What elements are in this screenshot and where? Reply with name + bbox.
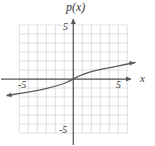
x-axis-label: x: [140, 73, 145, 84]
x-tick-label-positive-5: 5: [116, 80, 121, 90]
y-tick-label-negative-5: -5: [59, 125, 67, 135]
y-tick-label-positive-5: 5: [63, 22, 68, 32]
y-axis-function-label: p(x): [66, 1, 85, 13]
plot-canvas: [0, 0, 155, 146]
graph-figure: p(x) x -5 5 5 -5: [0, 0, 155, 146]
x-tick-label-negative-5: -5: [18, 80, 26, 90]
